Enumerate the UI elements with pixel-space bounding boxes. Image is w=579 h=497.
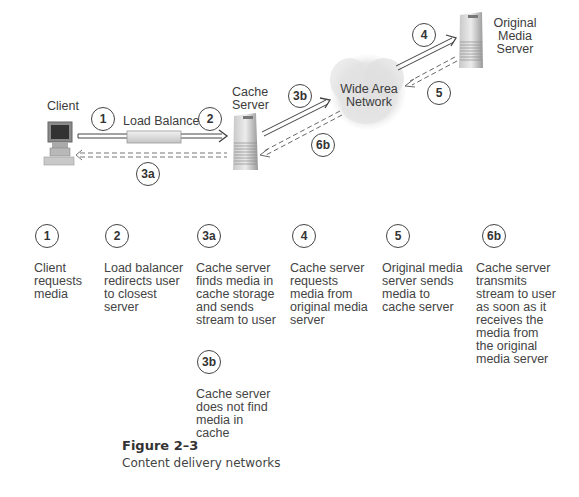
flow-marker-4: 4 (412, 23, 436, 47)
step-3b-text: Cache server does not find media in cach… (196, 388, 291, 440)
load-balancer-label: Load Balancer (123, 114, 204, 128)
figure-caption: Content delivery networks (122, 456, 281, 470)
client-label: Client (47, 99, 79, 113)
step-1-marker: 1 (35, 224, 59, 248)
step-4-text: Cache server requests media from origina… (290, 262, 385, 327)
step-5-marker: 5 (386, 224, 410, 248)
step-3a-marker: 3a (197, 224, 221, 248)
cache-server-label: Cache Server (232, 86, 269, 112)
step-3a-text: Cache server finds media in cache storag… (196, 262, 291, 327)
cache-server-icon (233, 113, 258, 170)
step-2-text: Load balancer redirects user to closest … (104, 262, 199, 314)
step-2-marker: 2 (105, 224, 129, 248)
cache-server-label-line2: Server (232, 99, 269, 112)
flow-marker-3b: 3b (288, 84, 312, 108)
arrow-cache-to-client (76, 150, 227, 160)
wan-label-line2: Network (338, 96, 400, 109)
origin-server-label: Original Media Server (492, 17, 538, 56)
step-4-marker: 4 (292, 224, 316, 248)
flow-marker-3a: 3a (136, 162, 160, 186)
flow-marker-1: 1 (91, 107, 115, 131)
step-3b-marker: 3b (197, 350, 221, 374)
figure-number: Figure 2–3 (122, 438, 198, 453)
step-6b-marker: 6b (482, 224, 506, 248)
origin-server-icon (459, 12, 483, 68)
load-balancer-icon (127, 131, 181, 143)
flow-marker-2: 2 (198, 107, 222, 131)
computer-icon (44, 122, 74, 165)
step-5-text: Original media server sends media to cac… (382, 262, 477, 314)
flow-marker-6b: 6b (311, 133, 335, 157)
flow-marker-5: 5 (427, 81, 451, 105)
origin-label-line3: Server (492, 43, 538, 56)
step-6b-text: Cache server transmits stream to user as… (476, 262, 571, 366)
wan-label: Wide Area Network (338, 83, 400, 109)
